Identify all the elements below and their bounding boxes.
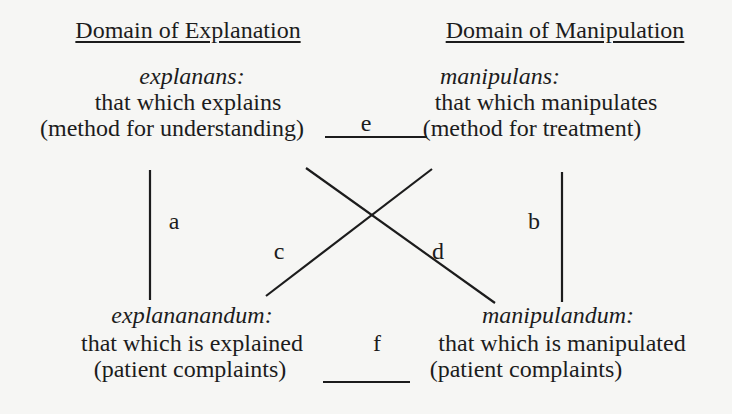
detail-manipulans: (method for treatment): [423, 115, 642, 141]
description-explananandum: that which is explained: [81, 330, 303, 356]
detail-explananandum: (patient complaints): [94, 356, 287, 382]
description-manipulandum: that which is manipulated: [438, 330, 685, 356]
edge-label-f: f: [373, 330, 381, 356]
edge-label-b: b: [528, 208, 540, 234]
term-manipulandum: manipulandum:: [482, 302, 634, 328]
edge-label-a: a: [169, 208, 180, 234]
header-domain-of-manipulation: Domain of Manipulation: [446, 17, 685, 43]
detail-explanans: (method for understanding): [40, 115, 304, 141]
edge-label-c: c: [274, 238, 285, 264]
edge-label-e: e: [361, 110, 372, 136]
edge-label-d: d: [432, 238, 444, 264]
description-explanans: that which explains: [95, 89, 282, 115]
description-manipulans: that which manipulates: [435, 89, 658, 115]
edge-line-d: [306, 168, 495, 303]
detail-manipulandum: (patient complaints): [430, 356, 623, 382]
edge-line-c: [266, 169, 432, 296]
term-manipulans: manipulans:: [440, 63, 560, 89]
header-domain-of-explanation: Domain of Explanation: [75, 17, 300, 43]
term-explanans: explanans:: [139, 63, 244, 89]
term-explananandum: explananandum:: [111, 302, 272, 328]
